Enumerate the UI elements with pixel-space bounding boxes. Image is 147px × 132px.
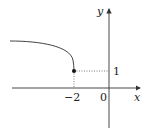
function-graph: y x 0 −2 1: [0, 0, 147, 132]
y-tick-label: 1: [113, 65, 120, 78]
y-axis-label: y: [96, 5, 104, 18]
x-tick-label: −2: [64, 91, 80, 104]
endpoint-dot: [72, 69, 76, 73]
origin-label: 0: [100, 91, 107, 104]
function-curve: [10, 41, 74, 71]
x-axis-label: x: [134, 91, 141, 104]
